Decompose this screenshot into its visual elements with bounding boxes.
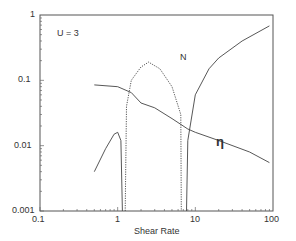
y-tick-1: 1 — [30, 9, 35, 19]
curve-eta-solid — [94, 85, 269, 163]
annotation-u: U = 3 — [57, 28, 79, 38]
curve-n-dotted — [125, 62, 181, 211]
x-tick-1: 1 — [115, 214, 120, 224]
curve-label-eta: η — [216, 134, 224, 149]
x-tick-10: 10 — [190, 214, 200, 224]
x-tick-0.1: 0.1 — [32, 214, 45, 224]
y-tick-0.1: 0.1 — [18, 74, 31, 84]
y-tick-0.01: 0.01 — [14, 140, 32, 150]
chart-plot — [0, 0, 296, 241]
curve-n-solid — [187, 26, 270, 211]
x-axis-label: Shear Rate — [134, 226, 180, 236]
curve-n-solid — [94, 132, 122, 211]
curve-label-n: N — [180, 52, 187, 62]
x-tick-100: 100 — [264, 214, 279, 224]
